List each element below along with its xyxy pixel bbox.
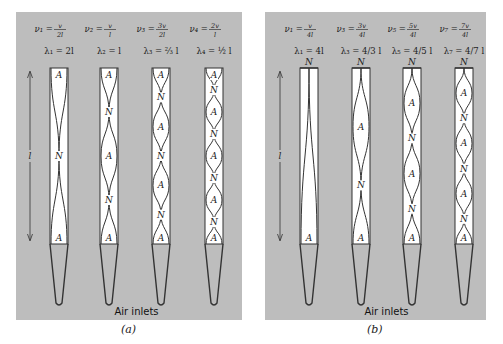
node-label: N [407,204,417,214]
pipe-mouthpiece [152,244,170,305]
wavelength-formula: λ₃ = ⅔ l [144,46,179,56]
svg-text:4l: 4l [306,31,313,39]
node-label: N [156,210,166,220]
pipe-mouthpiece [205,244,223,305]
wavelength-formula: λ₁ = 2l [44,46,74,56]
svg-text:2v: 2v [210,22,219,30]
panel-closed-pipes: lν₁ =v4lλ₁ = 4lNAν₃ =3v4lλ₃ = 4/3 lNANAν… [265,12,486,320]
antinode-label: A [408,233,416,243]
antinode-label: A [55,70,63,80]
svg-text:3v: 3v [358,22,366,30]
node-label: N [209,85,219,95]
pipe-mouthpiece [300,244,318,305]
svg-text:4l: 4l [409,31,416,39]
pipe-mouthpiece [352,244,370,305]
node-label: N [459,113,469,123]
antinode-label: A [357,122,365,132]
node-label: N [104,195,114,205]
antinode-label: A [460,88,468,98]
wavelength-formula: λ₇ = 4/7 l [444,46,485,56]
antinode-label: A [305,233,313,243]
svg-text:5v: 5v [409,22,417,30]
antinode-label: A [157,70,165,80]
wavelength-formula: λ₂ = l [97,46,121,56]
antinode-label: A [157,233,165,243]
antinode-label: A [408,169,416,179]
node-label: N [209,217,219,227]
pipe-mode-4: ν₄ =2vlλ₄ = ½ lANANANANA [190,22,232,305]
antinode-label: A [210,151,218,161]
pipe-mode-3: ν₃ =3v2lλ₃ = ⅔ lANANANA [137,22,179,305]
pipe-body [352,68,370,244]
svg-text:3v: 3v [158,22,166,30]
closed-pipe-diagram: lν₁ =v4lλ₁ = 4lNAν₃ =3v4lλ₃ = 4/3 lNANAν… [265,12,486,320]
pipe-mouthpiece [403,244,421,305]
pipe-mode-3: ν₅ =5v4lλ₅ = 4/5 lNANANA [388,22,433,305]
wavelength-formula: λ₃ = 4/3 l [341,46,382,56]
svg-text:7v: 7v [461,22,469,30]
antinode-label: A [105,70,113,80]
node-label: N [104,107,114,117]
frequency-formula: ν₃ = [337,24,355,34]
caption-b: (b) [367,323,383,336]
node-label: N [459,214,469,224]
panel-open-pipes: lν₁ =v2lλ₁ = 2lANAν₂ =vlλ₂ = lANANAν₃ =3… [16,12,242,320]
node-label: N [156,151,166,161]
svg-text:2l: 2l [56,31,63,39]
antinode-label: A [210,70,218,80]
length-label: l [29,151,32,161]
pipe-mode-2: ν₃ =3v4lλ₃ = 4/3 lNANA [337,22,382,305]
svg-text:l: l [109,31,111,39]
node-label: N [459,57,469,67]
svg-text:v: v [108,22,112,30]
pipe-mode-4: ν₇ =7v4lλ₇ = 4/7 lNANANANA [440,22,485,305]
frequency-formula: ν₇ = [440,24,458,34]
svg-text:v: v [58,22,62,30]
length-label: l [279,151,282,161]
antinode-label: A [210,233,218,243]
svg-text:2l: 2l [158,31,165,39]
antinode-label: A [210,107,218,117]
svg-text:4l: 4l [461,31,468,39]
antinode-label: A [408,98,416,108]
node-label: N [459,164,469,174]
wavelength-formula: λ₄ = ½ l [197,46,232,56]
node-label: N [156,92,166,102]
node-label: N [356,57,366,67]
air-inlets-label: Air inlets [114,306,158,317]
pipe-body [403,68,421,244]
antinode-label: A [210,195,218,205]
wavelength-formula: λ₁ = 4l [294,46,324,56]
open-pipe-diagram: lν₁ =v2lλ₁ = 2lANAν₂ =vlλ₂ = lANANAν₃ =3… [16,12,242,320]
frequency-formula: ν₂ = [85,24,103,34]
antinode-label: A [460,189,468,199]
pipe-mouthpiece [455,244,473,305]
node-label: N [407,57,417,67]
frequency-formula: ν₁ = [35,24,53,34]
antinode-label: A [157,122,165,132]
antinode-label: A [357,233,365,243]
node-label: N [209,129,219,139]
pipe-mode-1: ν₁ =v2lλ₁ = 2lANA [35,22,74,305]
frequency-formula: ν₅ = [388,24,406,34]
antinode-label: A [105,151,113,161]
caption-a: (a) [121,323,136,336]
antinode-label: A [55,233,63,243]
pipe-mode-1: ν₁ =v4lλ₁ = 4lNA [285,22,324,305]
pipe-mode-2: ν₂ =vlλ₂ = lANANA [85,22,122,305]
frequency-formula: ν₄ = [190,24,208,34]
node-label: N [304,57,314,67]
antinode-label: A [105,233,113,243]
svg-text:4l: 4l [358,31,365,39]
antinode-label: A [157,180,165,190]
node-label: N [54,151,64,161]
svg-text:v: v [308,22,312,30]
air-inlets-label: Air inlets [364,306,408,317]
svg-text:l: l [214,31,216,39]
antinode-label: A [460,138,468,148]
pipe-mouthpiece [50,244,68,305]
pipe-mouthpiece [100,244,118,305]
antinode-label: A [460,233,468,243]
frequency-formula: ν₁ = [285,24,303,34]
frequency-formula: ν₃ = [137,24,155,34]
